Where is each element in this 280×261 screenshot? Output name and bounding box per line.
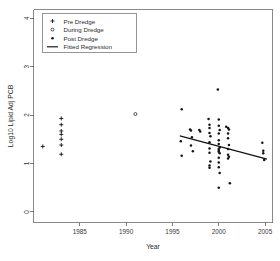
legend: Pre DredgeDuring DredgePost DredgeFitted… bbox=[43, 14, 137, 53]
legend-label: Fitted Regression bbox=[64, 43, 113, 50]
data-point bbox=[59, 123, 63, 127]
data-point bbox=[262, 150, 265, 153]
x-tick-label: 1990 bbox=[119, 228, 134, 235]
data-point bbox=[218, 152, 221, 155]
y-tick-label: 1 bbox=[24, 161, 31, 165]
axis-titles: YearLog10 Lipid Adj PCB bbox=[7, 84, 161, 249]
fitted-regression-line bbox=[180, 136, 267, 159]
data-point bbox=[229, 182, 232, 185]
data-point bbox=[208, 152, 211, 155]
data-point bbox=[228, 128, 231, 131]
data-point bbox=[209, 160, 212, 163]
data-point bbox=[217, 88, 220, 91]
data-point bbox=[227, 137, 230, 140]
data-point bbox=[199, 130, 202, 133]
data-point bbox=[190, 144, 193, 147]
data-point bbox=[262, 152, 265, 155]
x-tick-label: 1985 bbox=[73, 228, 88, 235]
data-point bbox=[134, 113, 137, 116]
data-point bbox=[59, 116, 63, 120]
data-point bbox=[208, 132, 211, 135]
legend-label: Post Dredge bbox=[64, 35, 99, 42]
y-tick-label: 4 bbox=[24, 16, 31, 20]
data-point bbox=[227, 132, 230, 135]
data-point bbox=[209, 135, 212, 138]
legend-label: Pre Dredge bbox=[64, 18, 96, 25]
data-point bbox=[218, 139, 221, 142]
data-point bbox=[59, 152, 63, 156]
data-point bbox=[208, 164, 211, 167]
regression-line bbox=[180, 136, 267, 159]
data-point bbox=[59, 137, 63, 141]
legend-marker-filled-circle bbox=[51, 37, 54, 40]
data-point bbox=[218, 161, 221, 164]
series-during-dredge bbox=[134, 113, 137, 116]
data-point bbox=[180, 108, 183, 111]
y-axis-title: Log10 Lipid Adj PCB bbox=[7, 84, 15, 147]
data-point bbox=[208, 123, 211, 126]
x-tick-label: 1995 bbox=[165, 228, 180, 235]
x-axis: 19851990199520002005 bbox=[73, 223, 273, 236]
data-point bbox=[208, 167, 211, 170]
series-post-dredge bbox=[180, 88, 266, 189]
data-point bbox=[192, 150, 195, 153]
data-point bbox=[227, 157, 230, 160]
data-point bbox=[191, 136, 194, 139]
y-tick-label: 2 bbox=[24, 113, 31, 117]
data-point bbox=[218, 143, 221, 146]
data-point bbox=[41, 144, 45, 148]
data-point bbox=[218, 132, 221, 135]
chart-figure: 01234 19851990199520002005 Pre DredgeDur… bbox=[0, 0, 280, 261]
data-point bbox=[59, 143, 63, 147]
data-point bbox=[208, 147, 211, 150]
data-point bbox=[218, 124, 221, 127]
data-point bbox=[218, 166, 221, 169]
y-tick-label: 3 bbox=[24, 64, 31, 68]
y-tick-label: 0 bbox=[24, 210, 31, 214]
data-point bbox=[207, 118, 210, 121]
data-point bbox=[218, 118, 221, 121]
data-point bbox=[180, 140, 183, 143]
data-points-group bbox=[41, 88, 266, 189]
legend-label: During Dredge bbox=[64, 26, 105, 33]
data-point bbox=[263, 159, 266, 162]
x-tick-label: 2005 bbox=[258, 228, 273, 235]
data-point bbox=[190, 129, 193, 132]
y-axis: 01234 bbox=[24, 16, 34, 214]
data-point bbox=[228, 144, 231, 147]
data-point bbox=[208, 127, 211, 130]
series-pre-dredge bbox=[41, 116, 64, 156]
data-point bbox=[59, 132, 63, 136]
data-point bbox=[261, 141, 264, 144]
data-point bbox=[218, 172, 221, 175]
scatter-plot: 01234 19851990199520002005 Pre DredgeDur… bbox=[0, 0, 280, 261]
data-point bbox=[218, 156, 221, 159]
x-axis-title: Year bbox=[146, 243, 160, 250]
x-tick-label: 2000 bbox=[212, 228, 227, 235]
data-point bbox=[218, 129, 221, 132]
data-point bbox=[180, 154, 183, 157]
data-point bbox=[218, 186, 221, 189]
